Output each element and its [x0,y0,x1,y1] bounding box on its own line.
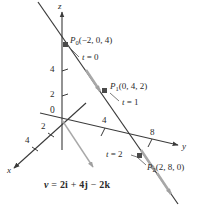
origin-label: 0 [50,106,55,116]
z-tick-2: 2 [50,90,55,99]
equation-term3: 2k [99,179,110,190]
param-label-t1: t = 1 [122,98,139,107]
point-marker-p2 [137,153,142,158]
point-name-p0: P [70,35,76,45]
equation-op1: + [71,179,77,190]
param-label-t0: t = 0 [82,53,99,62]
param-eq-t1: = 1 [127,97,139,107]
point-name-p1: P [110,81,116,91]
x-tick-4: 4 [25,136,30,145]
point-sub-p0: 0 [76,39,79,46]
equation-lhs: v [44,179,49,190]
equation-op2: − [91,179,97,190]
point-coords-p0: (−2, 0, 4) [79,35,113,45]
z-axis [62,12,68,150]
point-marker-p0 [63,42,68,47]
z-axis-label: z [58,2,62,11]
figure-canvas [0,0,202,205]
x-axis-label: x [7,166,11,175]
point-sub-p1: 1 [116,85,119,92]
param-var-t2: t [106,149,109,159]
x-tick-2: 2 [41,122,46,131]
point-coords-p2: (2, 8, 0) [156,162,185,172]
point-label-p0: P0(−2, 0, 4) [70,36,112,45]
y-axis-label: y [182,142,186,151]
y-axis [40,113,178,147]
point-name-p2: P [147,162,153,172]
point-label-p1: P1(0, 4, 2) [110,82,147,91]
point-label-p2: P2(2, 8, 0) [147,163,184,172]
param-label-t2: t = 2 [106,150,123,159]
y-tick-4: 4 [102,116,107,125]
point-marker-p1 [102,88,107,93]
z-tick-4: 4 [50,65,55,74]
point-sub-p2: 2 [153,166,156,173]
equation-equals: = [51,179,57,190]
param-var-t1: t [122,97,125,107]
equation-term2: 4j [79,179,88,190]
param-var-t0: t [82,52,85,62]
vector-equation: v = 2i + 4j − 2k [44,180,110,190]
y-tick-8: 8 [150,128,155,137]
vector-line-figure: z y x 0 4 2 4 8 2 4 P0(−2, 0, 4) t = 0 P… [0,0,202,205]
param-eq-t0: = 0 [87,52,99,62]
equation-term1: 2i [60,179,68,190]
point-coords-p1: (0, 4, 2) [119,81,148,91]
parametric-line [38,2,178,204]
param-eq-t2: = 2 [111,149,123,159]
direction-vector-arrow [62,120,93,167]
